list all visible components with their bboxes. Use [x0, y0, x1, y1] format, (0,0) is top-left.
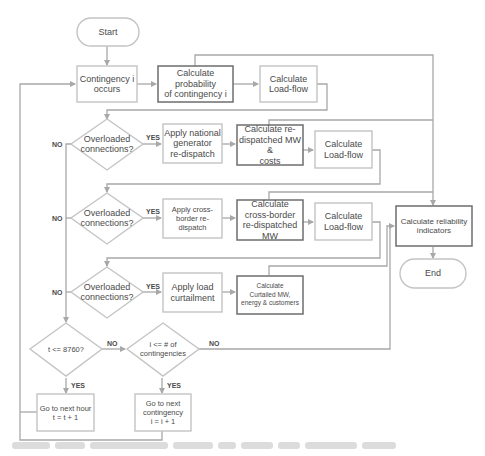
apply-crossborder-node: Apply cross- border re-dispatch [163, 199, 222, 238]
end-label: End [400, 259, 466, 288]
i-check-node: i <= # of contingencies [127, 336, 199, 362]
calc-loadflow-1-node: Calculate Load-flow [260, 66, 317, 102]
calc-redispatched-node: Calculate re- dispatched MW & costs [237, 125, 303, 165]
calc-crossborder-node: Calculate cross-border re-dispatched MW [237, 200, 303, 240]
no-label-i: NO [209, 340, 220, 347]
overloaded-1-node: Overloaded connections? [71, 130, 143, 158]
figure-caption-blurred [12, 440, 396, 450]
yes-label-i: YES [167, 382, 181, 389]
yes-label-t: YES [71, 382, 85, 389]
calc-reliability-node: Calculate reliability indicators [396, 206, 472, 246]
contingency-occurs-node: Contingency i occurs [77, 66, 137, 102]
calc-loadflow-3-node: Calculate Load-flow [315, 203, 372, 240]
calc-curtailed-node: Calculate Curtailed MW, energy & custome… [237, 276, 303, 314]
overloaded-3-node: Overloaded connections? [71, 278, 143, 306]
no-label-t: NO [107, 340, 118, 347]
next-hour-node: Go to next hour t = t + 1 [37, 394, 94, 431]
t-check-node: t <= 8760? [30, 340, 102, 358]
apply-curtailment-node: Apply load curtailment [163, 273, 222, 312]
yes-label-2: YES [146, 208, 160, 215]
yes-label-1: YES [146, 134, 160, 141]
no-label-3: NO [52, 289, 63, 296]
calc-loadflow-2-node: Calculate Load-flow [315, 131, 372, 168]
yes-label-3: YES [146, 283, 160, 290]
calc-probability-node: Calculate probability of contingency i [158, 66, 233, 102]
start-label: Start [77, 18, 139, 46]
apply-national-node: Apply national generator re-dispatch [163, 124, 222, 163]
no-label-2: NO [52, 215, 63, 222]
next-contingency-node: Go to next contingency i = i + 1 [135, 394, 191, 431]
no-label-1: NO [52, 141, 63, 148]
overloaded-2-node: Overloaded connections? [71, 204, 143, 232]
connectors [20, 46, 433, 440]
